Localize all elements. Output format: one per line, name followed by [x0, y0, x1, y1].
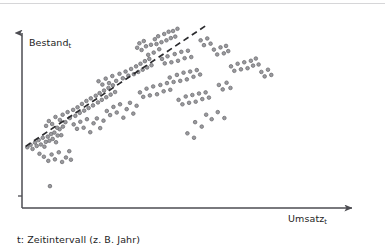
data-point [249, 59, 253, 63]
data-point [94, 94, 98, 98]
data-point [254, 57, 258, 61]
data-point [209, 42, 213, 46]
data-point [212, 48, 216, 52]
data-point [57, 150, 61, 154]
data-point [67, 149, 71, 153]
data-point [191, 93, 195, 97]
data-point [229, 86, 233, 90]
data-point [118, 72, 122, 76]
data-point [85, 99, 89, 103]
data-point [44, 140, 48, 144]
data-point [169, 36, 173, 40]
data-point [155, 42, 159, 46]
data-point [46, 159, 50, 163]
data-point [82, 126, 86, 130]
data-point [76, 105, 80, 109]
data-point [226, 49, 230, 53]
data-point [207, 96, 211, 100]
x-axis-label-subscript: t [324, 218, 327, 226]
data-point [193, 120, 197, 124]
data-point [151, 85, 155, 89]
data-point [145, 87, 149, 91]
data-point [129, 67, 133, 71]
data-point [192, 75, 196, 79]
data-point [239, 68, 243, 72]
data-point [233, 69, 237, 73]
data-point [138, 91, 142, 95]
data-point [89, 97, 93, 101]
data-point [50, 153, 54, 157]
data-point [251, 64, 255, 68]
data-point [173, 52, 177, 56]
data-point [197, 92, 201, 96]
data-point [74, 114, 78, 118]
data-point [165, 39, 169, 43]
data-point [112, 105, 116, 109]
data-point [79, 120, 83, 124]
data-point [111, 84, 115, 88]
data-point [102, 89, 106, 93]
chart-figure: Bestandt Umsatzt t: Zeitintervall (z. B.… [0, 0, 385, 252]
x-axis-label-text: Umsatz [288, 213, 324, 224]
data-point [160, 40, 164, 44]
data-point [173, 35, 177, 39]
data-point [184, 95, 188, 99]
data-point [159, 83, 163, 87]
data-point [153, 37, 157, 41]
data-point [72, 123, 76, 127]
data-point [54, 140, 58, 144]
data-point [139, 62, 143, 66]
data-point [135, 104, 139, 108]
data-point [222, 52, 226, 56]
data-point [42, 155, 46, 159]
data-point [221, 88, 225, 92]
data-point [31, 147, 35, 151]
data-point [105, 109, 109, 113]
data-point [48, 184, 52, 188]
data-point [46, 135, 50, 139]
data-point [59, 133, 63, 137]
data-point [198, 73, 202, 77]
data-point [217, 83, 221, 87]
data-point [39, 143, 43, 147]
data-point [246, 66, 250, 70]
data-point [204, 91, 208, 95]
y-axis-label: Bestandt [29, 37, 71, 48]
data-point [98, 126, 102, 130]
y-axis-label-subscript: t [69, 42, 72, 50]
data-point [185, 78, 189, 82]
data-point [114, 79, 118, 83]
data-point [58, 118, 62, 122]
data-point [163, 62, 167, 66]
data-point [54, 115, 58, 119]
data-point [38, 152, 42, 156]
data-point [64, 156, 68, 160]
data-point [165, 81, 169, 85]
data-point [87, 106, 91, 110]
data-point [85, 117, 89, 121]
data-point [109, 93, 113, 97]
data-point [168, 76, 172, 80]
y-axis-label-text: Bestand [29, 37, 69, 48]
data-point [229, 65, 233, 69]
data-point [82, 109, 86, 113]
data-point [224, 44, 228, 48]
data-point [152, 51, 156, 55]
data-point [47, 119, 51, 123]
data-point [162, 89, 166, 93]
data-point [146, 53, 150, 57]
data-point [194, 100, 198, 104]
data-point [124, 70, 128, 74]
data-point [157, 47, 161, 51]
data-point [219, 46, 223, 50]
data-point [176, 27, 180, 31]
data-point [96, 101, 100, 105]
data-point [148, 94, 152, 98]
data-point [71, 108, 75, 112]
data-point [53, 158, 57, 162]
data-point [35, 144, 39, 148]
data-point [150, 63, 154, 67]
data-point [168, 88, 172, 92]
data-point [201, 97, 205, 101]
data-point [56, 134, 60, 138]
